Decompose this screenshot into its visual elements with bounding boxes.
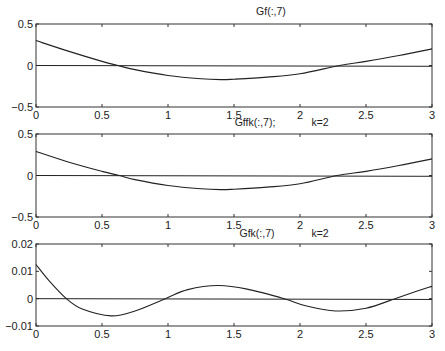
y-tick-label: 0 [27,170,33,182]
x-tick-label: 2 [297,109,303,121]
x-tick-label: 0.5 [94,219,109,231]
x-tick-label: 0.5 [94,328,109,340]
subplot-1: 00.511.522.53−0.500.5Gf(:,7) [11,5,435,121]
subplot-title-param: k=2 [311,227,328,239]
y-tick-label: 0.01 [12,265,33,277]
zero-line [36,66,432,67]
x-tick-label: 1.5 [226,328,241,340]
x-tick-label: 2 [297,328,303,340]
subplot-3: 00.511.522.53−0.0100.010.02Gfk(:,7)k=2 [5,227,435,340]
subplot-title: Gf(:,7) [256,5,286,17]
series-line [36,151,432,189]
zero-line [36,299,432,300]
subplot-2: 00.511.522.53−0.500.5Gffk(:,7);k=2 [11,116,435,231]
x-tick-label: 3 [429,109,435,121]
x-tick-label: 3 [429,328,435,340]
x-tick-label: 2 [297,219,303,231]
y-tick-label: −0.5 [11,101,33,113]
subplot-title: Gfk(:,7) [239,227,274,239]
x-tick-label: 0 [33,328,39,340]
x-tick-label: 2.5 [358,219,373,231]
series-line [36,41,432,80]
y-tick-label: 0.02 [12,238,33,250]
zero-line [36,176,432,177]
x-tick-label: 1 [165,219,171,231]
y-tick-label: 0.5 [18,18,33,30]
x-tick-label: 0 [33,109,39,121]
x-tick-label: 0 [33,219,39,231]
x-tick-label: 0.5 [94,109,109,121]
y-tick-label: 0 [27,60,33,72]
figure: 00.511.522.53−0.500.5Gf(:,7) 00.511.522.… [0,0,445,351]
x-tick-label: 1 [165,328,171,340]
x-tick-label: 2.5 [358,328,373,340]
y-tick-label: −0.01 [5,320,33,332]
subplot-title-param: k=2 [311,116,328,128]
subplot-title: Gffk(:,7); [235,116,276,128]
x-tick-label: 3 [429,219,435,231]
y-tick-label: −0.5 [11,211,33,223]
y-tick-label: 0 [27,293,33,305]
x-tick-label: 2.5 [358,109,373,121]
y-tick-label: 0.5 [18,128,33,140]
series-line [36,265,432,316]
x-tick-label: 1 [165,109,171,121]
